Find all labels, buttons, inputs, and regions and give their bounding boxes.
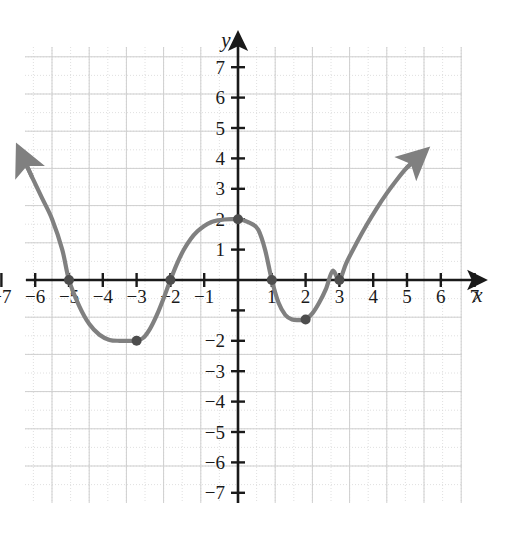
x-tick-label--7: −7 [0, 286, 12, 307]
x-tick-label--1: −1 [194, 286, 214, 307]
x-tick-label-5: 5 [402, 286, 412, 307]
y-tick-label-6: 6 [216, 87, 226, 108]
x-tick-label--6: −6 [25, 286, 45, 307]
coordinate-plane-svg: −7−6−5−4−3−2−112345677654321−2−3−4−5−6−7… [0, 0, 506, 536]
marked-point-local-maximum-and-y-intercept [233, 214, 243, 224]
x-tick-label-3: 3 [335, 286, 345, 307]
y-axis-label: y [219, 28, 231, 52]
y-tick-label-1: 1 [216, 239, 226, 260]
x-tick-label-4: 4 [368, 286, 378, 307]
y-tick-label--6: −6 [205, 452, 225, 473]
grid-lines [25, 47, 462, 503]
x-tick-label--4: −4 [93, 286, 114, 307]
left-end-arrow-icon [23, 158, 31, 176]
y-tick-label-7: 7 [216, 57, 226, 78]
x-tick-label-6: 6 [436, 286, 446, 307]
marked-point-x-intercept [165, 275, 175, 285]
marked-point-x-intercept [64, 275, 74, 285]
y-tick-label--5: −5 [205, 422, 225, 443]
marked-point-local-minimum [132, 336, 142, 346]
y-tick-label--2: −2 [205, 330, 225, 351]
y-tick-label--7: −7 [205, 482, 225, 503]
y-tick-label--3: −3 [205, 361, 225, 382]
marked-point-x-intercept [267, 275, 277, 285]
y-tick-label-5: 5 [216, 118, 226, 139]
axes [26, 41, 477, 503]
y-tick-label-4: 4 [216, 148, 226, 169]
marked-point-local-minimum [301, 315, 311, 325]
right-end-arrow-icon [407, 158, 417, 167]
x-axis-label: x [472, 283, 483, 307]
y-tick-label-3: 3 [216, 178, 226, 199]
graph-figure: −7−6−5−4−3−2−112345677654321−2−3−4−5−6−7… [0, 0, 506, 536]
marked-point-x-intercept [334, 275, 344, 285]
x-tick-label-2: 2 [301, 286, 311, 307]
y-tick-label--4: −4 [205, 391, 226, 412]
x-tick-label--3: −3 [126, 286, 146, 307]
